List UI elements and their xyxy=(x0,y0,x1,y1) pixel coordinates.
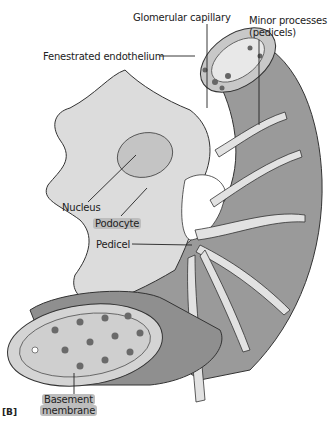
label-minor-processes: Minor processes xyxy=(249,15,327,26)
label-pedicel: Pedicel xyxy=(96,239,130,250)
label-glomerular-capillary: Glomerular capillary xyxy=(133,12,231,23)
label-membrane: membrane xyxy=(40,405,97,416)
label-pedicels: (pedicels) xyxy=(249,27,296,38)
label-fenestrated-endothelium: Fenestrated endothelium xyxy=(43,51,164,62)
podocyte-illustration xyxy=(0,0,336,427)
label-basement: Basement xyxy=(42,394,95,405)
label-nucleus: Nucleus xyxy=(62,202,100,213)
panel-label: [B] xyxy=(2,407,17,417)
label-podocyte: Podocyte xyxy=(93,218,141,229)
